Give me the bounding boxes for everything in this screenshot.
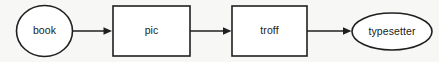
node-troff[interactable]: troff: [232, 6, 307, 56]
node-pic[interactable]: pic: [113, 6, 190, 56]
node-typesetter-label: typesetter: [368, 25, 416, 37]
arrowhead-icon-book-to-pic: [104, 27, 113, 35]
node-typesetter[interactable]: typesetter: [352, 13, 432, 50]
arrowhead-icon-pic-to-troff: [223, 27, 232, 35]
node-troff-label: troff: [260, 24, 278, 36]
edge-book-to-pic: [73, 27, 113, 35]
node-book-label: book: [33, 24, 57, 36]
diagram-canvas: book pic troff typesetter: [0, 0, 439, 62]
node-book[interactable]: book: [17, 6, 73, 57]
arrowhead-icon-troff-to-typesetter: [343, 27, 352, 35]
edge-troff-to-typesetter: [307, 27, 352, 35]
node-pic-label: pic: [145, 24, 159, 36]
pipeline-diagram: book pic troff typesetter: [0, 0, 439, 62]
edge-pic-to-troff: [190, 27, 232, 35]
